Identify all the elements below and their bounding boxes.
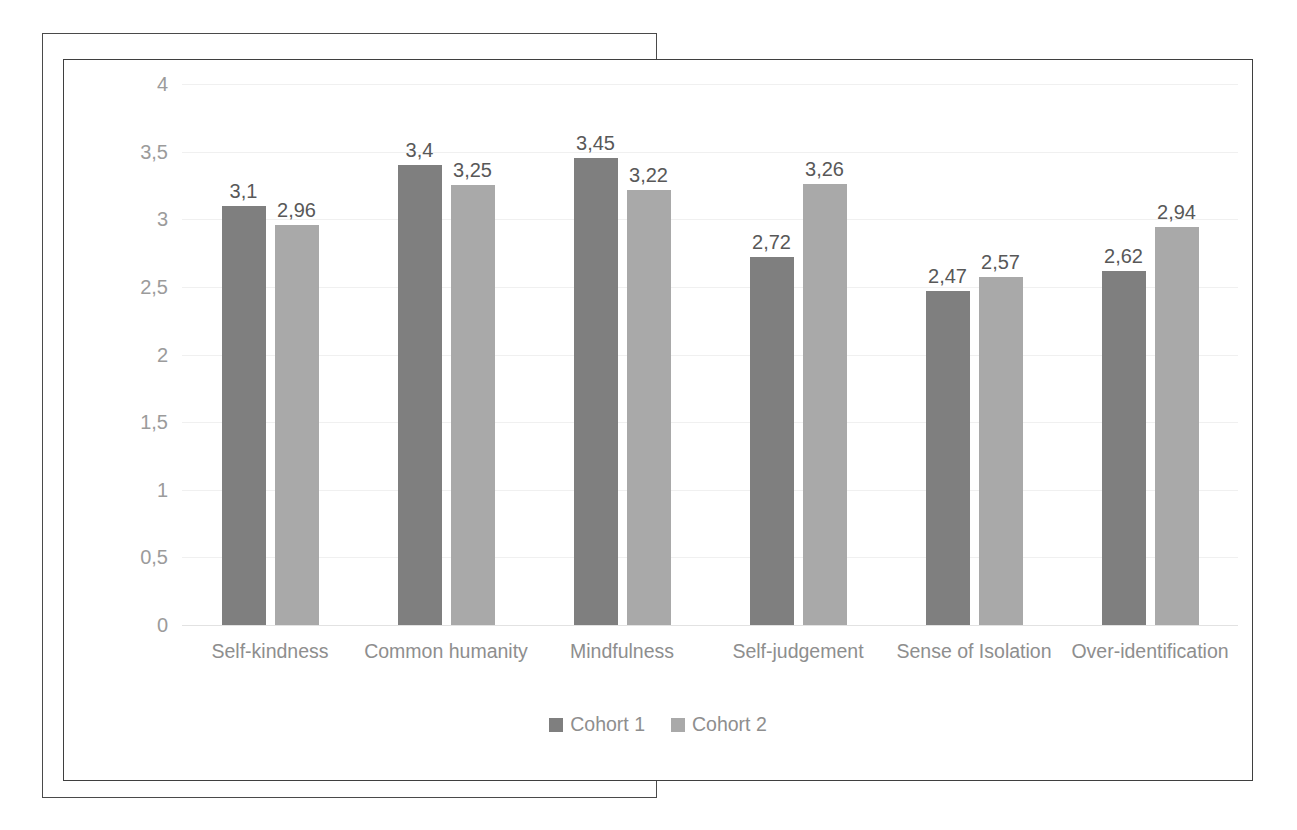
bar-column[interactable]: 2,96: [275, 84, 319, 625]
x-category-label: Common humanity: [358, 638, 534, 666]
bar-value-label: 3,25: [453, 160, 492, 180]
bar-value-label: 2,72: [752, 232, 791, 252]
bar-column[interactable]: 2,57: [979, 84, 1023, 625]
bar-group: 2,622,94: [1062, 84, 1238, 625]
bar-column[interactable]: 3,22: [627, 84, 671, 625]
legend-swatch-icon: [549, 718, 563, 732]
x-category-label: Over-identification: [1062, 638, 1238, 666]
chart-frame: 00,511,522,533,54 3,12,963,43,253,453,22…: [63, 59, 1253, 781]
x-category-label: Self-judgement: [710, 638, 886, 666]
bar-value-label: 3,26: [805, 159, 844, 179]
bar-value-label: 3,1: [230, 181, 258, 201]
bar-group: 3,43,25: [358, 84, 534, 625]
y-tick-label: 1,5: [140, 412, 168, 432]
bar[interactable]: [451, 185, 495, 625]
bar-value-label: 3,4: [406, 140, 434, 160]
bar[interactable]: [750, 257, 794, 625]
bar[interactable]: [926, 291, 970, 625]
bar-value-label: 2,57: [981, 252, 1020, 272]
y-tick-label: 3,5: [140, 142, 168, 162]
legend-label: Cohort 1: [570, 715, 645, 735]
gridline: [182, 625, 1238, 626]
y-tick-label: 2: [157, 345, 168, 365]
bar-group: 3,12,96: [182, 84, 358, 625]
x-category-label: Mindfulness: [534, 638, 710, 666]
x-category-label: Self-kindness: [182, 638, 358, 666]
bar[interactable]: [275, 225, 319, 625]
bar-groups: 3,12,963,43,253,453,222,723,262,472,572,…: [182, 84, 1238, 625]
bar-value-label: 3,22: [629, 165, 668, 185]
bar-column[interactable]: 2,47: [926, 84, 970, 625]
x-category-label: Sense of Isolation: [886, 638, 1062, 666]
bar-group: 2,723,26: [710, 84, 886, 625]
bar[interactable]: [979, 277, 1023, 625]
chart-legend: Cohort 1Cohort 2: [64, 715, 1252, 735]
bar-value-label: 2,96: [277, 200, 316, 220]
legend-item[interactable]: Cohort 1: [549, 715, 645, 735]
bar-column[interactable]: 3,4: [398, 84, 442, 625]
x-axis-category-labels: Self-kindnessCommon humanityMindfulnessS…: [182, 638, 1238, 666]
bar[interactable]: [803, 184, 847, 625]
bar[interactable]: [222, 206, 266, 625]
bar-column[interactable]: 3,25: [451, 84, 495, 625]
legend-swatch-icon: [671, 718, 685, 732]
bar-value-label: 2,62: [1104, 246, 1143, 266]
bar-column[interactable]: 3,1: [222, 84, 266, 625]
bar[interactable]: [574, 158, 618, 625]
legend-label: Cohort 2: [692, 715, 767, 735]
bar-column[interactable]: 2,72: [750, 84, 794, 625]
bar-column[interactable]: 2,62: [1102, 84, 1146, 625]
bar[interactable]: [1102, 271, 1146, 625]
bar-column[interactable]: 3,45: [574, 84, 618, 625]
y-tick-label: 2,5: [140, 277, 168, 297]
bar-value-label: 2,47: [928, 266, 967, 286]
bar[interactable]: [398, 165, 442, 625]
y-tick-label: 3: [157, 209, 168, 229]
bar-group: 3,453,22: [534, 84, 710, 625]
bar[interactable]: [1155, 227, 1199, 625]
legend-item[interactable]: Cohort 2: [671, 715, 767, 735]
bar-column[interactable]: 3,26: [803, 84, 847, 625]
bar-column[interactable]: 2,94: [1155, 84, 1199, 625]
y-tick-label: 0,5: [140, 547, 168, 567]
y-tick-label: 4: [157, 74, 168, 94]
bar-value-label: 3,45: [576, 133, 615, 153]
y-tick-label: 1: [157, 480, 168, 500]
bar-group: 2,472,57: [886, 84, 1062, 625]
chart-plot-area: 00,511,522,533,54 3,12,963,43,253,453,22…: [182, 84, 1238, 625]
bar-value-label: 2,94: [1157, 202, 1196, 222]
y-tick-label: 0: [157, 615, 168, 635]
bar[interactable]: [627, 190, 671, 626]
